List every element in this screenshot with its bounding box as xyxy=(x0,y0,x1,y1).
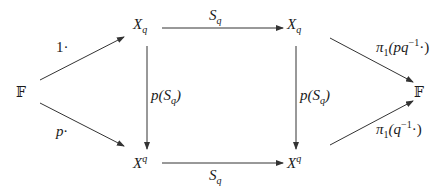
label-mid: (q xyxy=(389,121,402,137)
node-base: X xyxy=(133,155,142,171)
label-bottom-sq: Sq xyxy=(209,168,222,183)
label-pi1-pq-inv: π1(pq−1·) xyxy=(376,40,429,55)
label-pre: p(S xyxy=(300,87,320,103)
node-top-right-xq: Xq xyxy=(287,17,301,32)
node-sub: q xyxy=(142,24,147,35)
node-bottom-left-xsupq: Xq xyxy=(133,156,147,171)
node-right-field: 𝔽 xyxy=(414,85,424,99)
node-bottom-right-xsupq: Xq xyxy=(287,156,301,171)
node-top-left-xq: Xq xyxy=(133,17,147,32)
node-left-field: 𝔽 xyxy=(16,85,26,99)
label-sup: −1 xyxy=(409,37,420,48)
label-left-vertical: p(Sq) xyxy=(151,88,181,103)
label-sub: q xyxy=(171,95,176,106)
label-post: ) xyxy=(325,87,330,103)
label-post: ·) xyxy=(419,39,429,55)
label-sup: −1 xyxy=(401,119,412,130)
label-sub: q xyxy=(217,15,222,26)
node-base: X xyxy=(133,16,142,32)
label-one-dot: 1· xyxy=(56,40,69,55)
label-sub: 1 xyxy=(384,129,389,140)
label-pre: π xyxy=(376,121,384,137)
node-sub: q xyxy=(296,24,301,35)
node-base: X xyxy=(287,16,296,32)
arrow-layer xyxy=(0,0,445,189)
label-base: S xyxy=(209,167,217,183)
label-pi1-q-inv: π1(q−1·) xyxy=(376,122,422,137)
label-sub: q xyxy=(217,175,222,186)
label-p-dot: p· xyxy=(56,124,67,139)
label-base: S xyxy=(209,7,217,23)
node-base: X xyxy=(287,155,296,171)
label-sub: q xyxy=(320,95,325,106)
label-post: ·) xyxy=(412,121,422,137)
arrow-field-to-xsupq xyxy=(40,103,124,146)
label-top-sq: Sq xyxy=(209,8,222,23)
label-pre: p(S xyxy=(151,87,171,103)
label-post: ) xyxy=(176,87,181,103)
node-sup: q xyxy=(296,153,301,164)
arrow-field-to-xq xyxy=(40,37,124,80)
label-pre: π xyxy=(376,39,384,55)
label-mid: (pq xyxy=(389,39,409,55)
label-right-vertical: p(Sq) xyxy=(300,88,330,103)
label-sub: 1 xyxy=(384,47,389,58)
node-sup: q xyxy=(142,153,147,164)
